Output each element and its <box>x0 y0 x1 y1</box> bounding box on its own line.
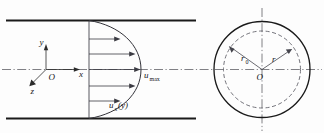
r-radius-indicator: r <box>262 49 292 70</box>
r0-subscript-label: 0 <box>246 59 249 65</box>
origin-label: O <box>49 72 56 82</box>
u-x-subscript: x <box>114 105 118 112</box>
u-max-subscript: max <box>150 76 160 82</box>
velocity-arrow <box>89 67 141 72</box>
velocity-arrowhead <box>129 52 135 57</box>
r-arrowhead <box>286 49 292 54</box>
velocity-arrow <box>89 84 136 89</box>
left-panel-longitudinal-section: y x z O <box>2 21 322 119</box>
velocity-arrow <box>89 99 121 104</box>
z-axis-line <box>32 70 47 85</box>
u-x-of-y-label: u x (y) <box>109 100 128 112</box>
x-axis-label: x <box>78 69 83 79</box>
u-x-base: u <box>109 100 114 110</box>
pipe-flow-figure: y x z O <box>0 0 324 133</box>
u-max-label: u max <box>144 70 160 82</box>
y-axis-arrowhead <box>44 44 48 50</box>
velocity-arrowhead <box>114 37 120 42</box>
u-x-argument: (y) <box>118 100 128 110</box>
velocity-arrow-group <box>89 37 141 104</box>
velocity-arrow <box>89 52 136 57</box>
figure-canvas: y x z O <box>0 0 324 133</box>
r0-base-label: r <box>241 53 245 63</box>
u-max-base: u <box>144 70 149 80</box>
r0-radius-indicator: r 0 <box>229 46 262 70</box>
velocity-arrowhead <box>134 67 140 72</box>
cross-section-center-label: O <box>257 72 264 82</box>
z-axis-label: z <box>30 86 35 96</box>
y-axis-label: y <box>39 37 44 47</box>
velocity-arrowhead <box>129 84 135 89</box>
r-label: r <box>272 54 276 64</box>
coordinate-axes: y x z O <box>29 37 83 96</box>
velocity-arrow <box>89 37 121 42</box>
